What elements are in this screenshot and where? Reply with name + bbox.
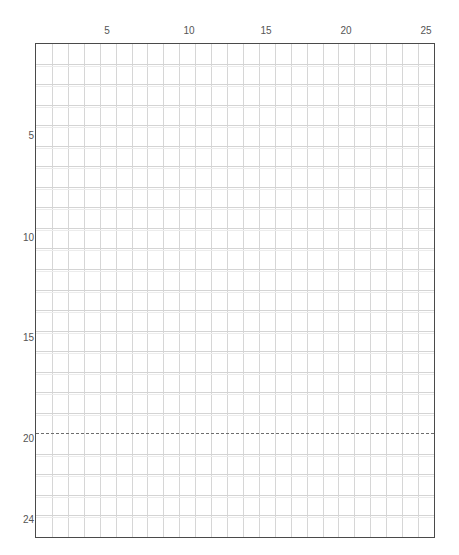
grid-row-line xyxy=(36,269,434,270)
grid-row-line xyxy=(36,84,434,85)
cell-grid[interactable] xyxy=(35,43,435,538)
grid-row-line xyxy=(36,454,434,455)
grid-row-line xyxy=(36,331,434,332)
grid-row-line xyxy=(36,64,434,65)
row-label-5: 5 xyxy=(28,130,34,141)
grid-row-line xyxy=(36,413,434,414)
grid-row-line xyxy=(36,474,434,475)
grid-row-line xyxy=(36,125,434,126)
column-label-20: 20 xyxy=(340,25,351,36)
grid-row-line xyxy=(36,105,434,106)
grid-row-line xyxy=(36,228,434,229)
row-label-24: 24 xyxy=(23,514,34,525)
grid-row-line xyxy=(36,495,434,496)
column-label-10: 10 xyxy=(183,25,194,36)
grid-row-line xyxy=(36,290,434,291)
grid-row-line xyxy=(36,310,434,311)
grid-row-line xyxy=(36,146,434,147)
grid-row-line xyxy=(36,207,434,208)
grid-row-line xyxy=(36,248,434,249)
column-label-25: 25 xyxy=(420,25,431,36)
grid-row-line xyxy=(36,351,434,352)
grid-row-line xyxy=(36,372,434,373)
row-label-20: 20 xyxy=(23,433,34,444)
row-label-15: 15 xyxy=(23,332,34,343)
column-label-5: 5 xyxy=(104,25,110,36)
grid-row-line xyxy=(36,166,434,167)
grid-row-line xyxy=(36,515,434,516)
column-label-15: 15 xyxy=(260,25,271,36)
dashed-separator-line xyxy=(36,433,434,434)
row-label-10: 10 xyxy=(23,232,34,243)
grid-row-line xyxy=(36,392,434,393)
grid-row-line xyxy=(36,187,434,188)
